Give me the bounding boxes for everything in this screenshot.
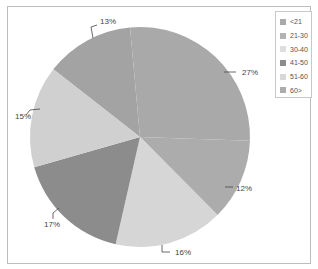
legend-label: 51-60 (290, 73, 308, 80)
legend-item: 60> (280, 83, 311, 97)
leader-line (91, 25, 97, 38)
data-label: 27% (242, 68, 258, 77)
legend-swatch (280, 60, 286, 66)
data-label: 12% (236, 184, 252, 193)
legend-swatch (280, 19, 286, 25)
data-label: 17% (44, 220, 60, 229)
legend-item: 30-40 (280, 42, 311, 56)
data-label: 16% (175, 248, 191, 257)
legend-item: 21-30 (280, 29, 311, 43)
legend-label: 21-30 (290, 32, 308, 39)
legend-swatch (280, 46, 286, 52)
data-label: 15% (15, 112, 31, 121)
data-label: 13% (100, 17, 116, 26)
legend-item: 41-50 (280, 56, 311, 70)
legend-swatch (280, 33, 286, 39)
legend-label: 30-40 (290, 46, 308, 53)
legend-label: <21 (290, 18, 302, 25)
legend-swatch (280, 74, 286, 80)
pie-slice-2130 (130, 27, 250, 141)
legend-swatch (280, 87, 286, 93)
legend-item: 51-60 (280, 70, 311, 84)
legend: <21 21-30 30-40 41-50 51-60 60> (275, 11, 312, 98)
pie-chart: 13%27%12%16%17%15% (0, 0, 318, 269)
leader-line (162, 245, 170, 252)
legend-label: 41-50 (290, 59, 308, 66)
legend-item: <21 (280, 15, 311, 29)
legend-label: 60> (290, 87, 302, 94)
